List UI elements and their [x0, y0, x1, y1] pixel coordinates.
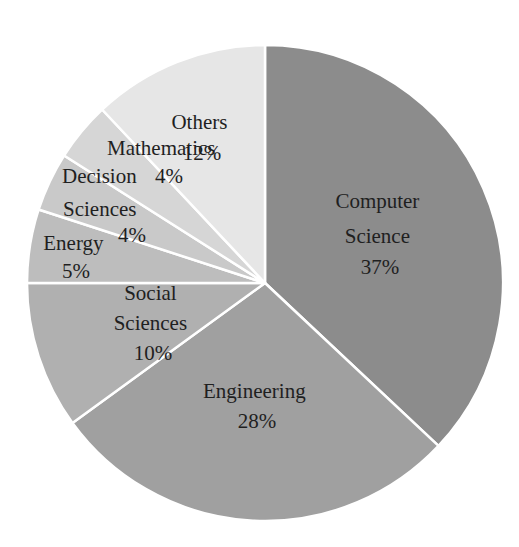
pie-slices	[27, 45, 503, 521]
pie-chart: Computer Science 37% Engineering 28% Soc…	[0, 0, 519, 547]
